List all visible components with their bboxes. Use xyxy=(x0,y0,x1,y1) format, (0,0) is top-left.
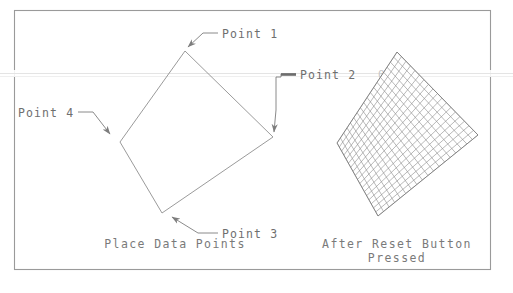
leader-line-point-1 xyxy=(188,33,218,47)
caption-place-data-points: Place Data Points xyxy=(104,237,246,251)
label-point-1: Point 1 xyxy=(222,27,278,41)
label-point-2: Point 2 xyxy=(300,68,356,82)
diagram-root: Point 1 Point 2 Point 4 Point 3 0000 Pla… xyxy=(0,0,513,293)
leader-line-point-2 xyxy=(274,74,296,132)
label-point-4: Point 4 xyxy=(18,106,74,120)
caption-after-reset-line2: Pressed xyxy=(368,251,426,265)
caption-after-reset-line1: After Reset Button xyxy=(322,237,472,251)
leader-line-point-3 xyxy=(172,217,218,233)
leader-line-point-4 xyxy=(78,112,110,134)
scan-artifact-band xyxy=(0,70,513,77)
diagram-canvas: Point 1 Point 2 Point 4 Point 3 0000 Pla… xyxy=(0,0,513,293)
